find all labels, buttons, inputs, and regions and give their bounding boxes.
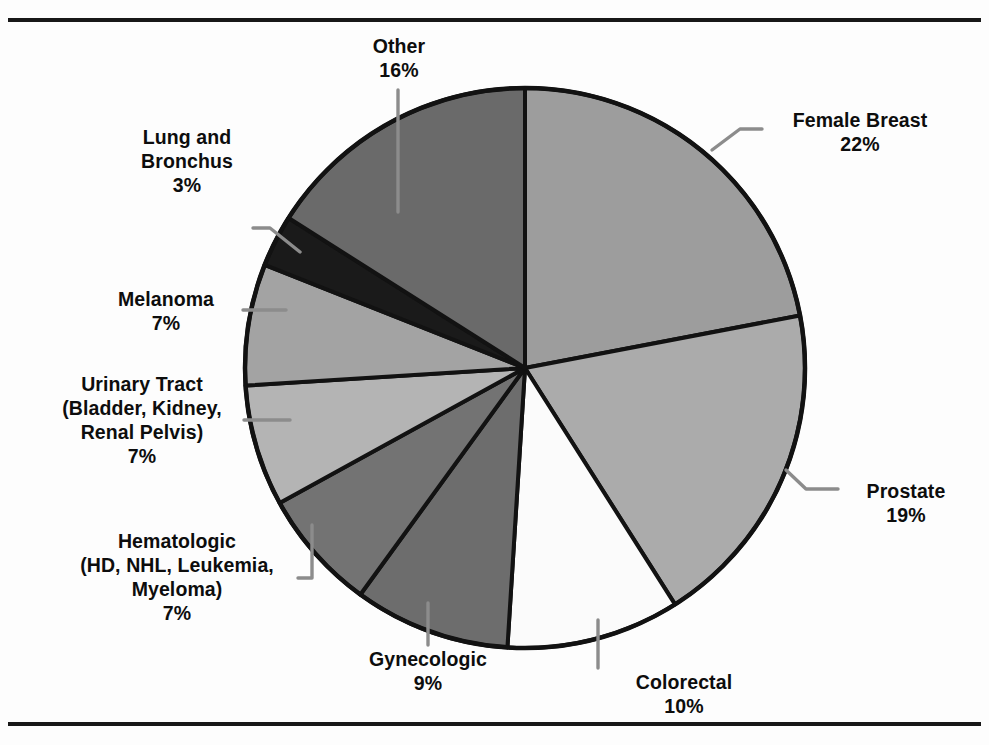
pie-slices	[245, 88, 805, 648]
callout-prostate: Prostate 19%	[846, 479, 966, 527]
callout-gynecologic: Gynecologic 9%	[330, 647, 526, 695]
callout-other-title: Other	[373, 35, 426, 57]
callout-lung-and-bronchus-line1: Lung and	[143, 126, 232, 148]
callout-colorectal: Colorectal 10%	[604, 670, 764, 718]
callout-colorectal-percent: 10%	[604, 694, 764, 718]
callout-prostate-title: Prostate	[867, 480, 946, 502]
callout-urinary-tract-percent: 7%	[44, 444, 240, 468]
leader-line-prostate	[786, 470, 838, 489]
callout-urinary-tract-line2: (Bladder, Kidney,	[44, 396, 240, 420]
callout-hematologic-line2: (HD, NHL, Leukemia,	[62, 553, 292, 577]
callout-gynecologic-title: Gynecologic	[369, 648, 487, 670]
callout-lung-and-bronchus: Lung and Bronchus 3%	[112, 125, 262, 197]
callout-prostate-percent: 19%	[846, 503, 966, 527]
callout-urinary-tract: Urinary Tract (Bladder, Kidney, Renal Pe…	[44, 372, 240, 468]
callout-female-breast-percent: 22%	[760, 132, 960, 156]
callout-gynecologic-percent: 9%	[330, 671, 526, 695]
leader-line-female-breast	[712, 129, 762, 150]
callout-hematologic: Hematologic (HD, NHL, Leukemia, Myeloma)…	[62, 529, 292, 625]
callout-urinary-tract-line3: Renal Pelvis)	[44, 420, 240, 444]
figure-canvas: Other 16% Lung and Bronchus 3% Melanoma …	[0, 0, 989, 745]
callout-female-breast: Female Breast 22%	[760, 108, 960, 156]
callout-melanoma-title: Melanoma	[118, 288, 214, 310]
callout-female-breast-title: Female Breast	[793, 109, 928, 131]
callout-other: Other 16%	[324, 34, 474, 82]
callout-hematologic-line1: Hematologic	[118, 530, 236, 552]
callout-melanoma-percent: 7%	[96, 311, 236, 335]
callout-lung-and-bronchus-line2: Bronchus	[112, 149, 262, 173]
callout-urinary-tract-line1: Urinary Tract	[81, 373, 203, 395]
callout-melanoma: Melanoma 7%	[96, 287, 236, 335]
callout-lung-and-bronchus-percent: 3%	[112, 173, 262, 197]
callout-hematologic-percent: 7%	[62, 601, 292, 625]
callout-other-percent: 16%	[324, 58, 474, 82]
callout-colorectal-title: Colorectal	[636, 671, 732, 693]
callout-hematologic-line3: Myeloma)	[62, 577, 292, 601]
